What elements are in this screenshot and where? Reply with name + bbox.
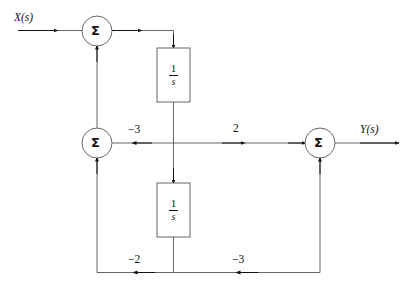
integrator-top-numerator: 1 — [162, 63, 185, 75]
summer-right-label: Σ — [314, 136, 323, 149]
integrator-bottom-numerator: 1 — [162, 198, 185, 210]
gain-label-middle-left: −3 — [128, 124, 140, 136]
integrator-bottom-denominator: s — [162, 211, 185, 222]
gain-label-middle-right: 2 — [233, 123, 239, 135]
summer-middle-left-label: Σ — [91, 136, 100, 149]
input-signal-label: X(s) — [14, 12, 33, 24]
gain-label-bottom-right: −3 — [232, 254, 244, 266]
wire-group — [18, 16, 399, 273]
integrator-top-denominator: s — [162, 76, 185, 87]
integrator-bottom-transfer-function: 1 s — [162, 198, 185, 222]
output-signal-label: Y(s) — [360, 124, 379, 136]
block-diagram-svg — [0, 0, 403, 286]
summer-top-left-label: Σ — [91, 24, 100, 37]
block-diagram-canvas: Σ Σ Σ X(s) Y(s) −3 2 −2 −3 1 s 1 s — [0, 0, 403, 286]
integrator-top-transfer-function: 1 s — [162, 63, 185, 87]
gain-label-bottom-left: −2 — [128, 254, 140, 266]
